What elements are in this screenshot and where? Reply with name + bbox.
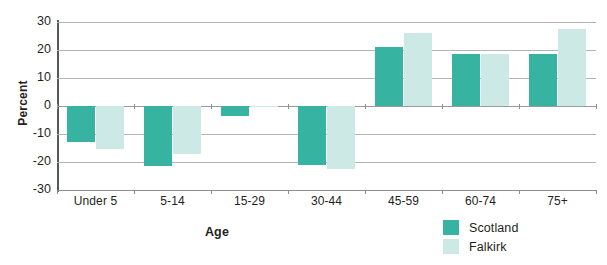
bar-scotland-60-74 xyxy=(452,54,480,106)
bar-scotland-15-29 xyxy=(221,106,249,116)
x-axis-tick-mark xyxy=(57,104,58,109)
x-axis-tick-mark-end xyxy=(596,104,597,109)
legend-label-falkirk: Falkirk xyxy=(469,240,507,254)
x-axis-title: Age xyxy=(57,225,377,239)
x-axis-tick-label: 60-74 xyxy=(442,194,519,208)
y-axis-tick-label: -10 xyxy=(0,126,51,140)
y-axis-tick-label: 0 xyxy=(0,98,51,112)
gridline xyxy=(57,22,596,23)
bar-chart: Percent 3020100-10-20-30 Under 55-1415-2… xyxy=(0,0,607,265)
x-axis-tick-mark-bottom xyxy=(442,190,443,194)
gridline xyxy=(57,78,596,79)
x-axis-tick-mark-bottom xyxy=(134,190,135,194)
legend-label-scotland: Scotland xyxy=(469,221,518,235)
bar-falkirk-under-5 xyxy=(96,106,124,149)
x-axis-tick-mark-bottom xyxy=(365,190,366,194)
x-axis-tick-mark-end xyxy=(596,190,597,194)
bar-scotland-30-44 xyxy=(298,106,326,165)
chart-title-remnant xyxy=(0,0,607,5)
legend-item-falkirk: Falkirk xyxy=(443,237,518,256)
y-axis-tick-label: -20 xyxy=(0,154,51,168)
x-axis-tick-mark xyxy=(519,104,520,109)
x-axis-tick-mark xyxy=(442,104,443,109)
bar-scotland-under-5 xyxy=(67,106,95,142)
x-axis-tick-mark-bottom xyxy=(57,190,58,194)
bar-falkirk-15-29 xyxy=(250,106,278,107)
x-axis-tick-label: 30-44 xyxy=(288,194,365,208)
x-axis-tick-mark xyxy=(211,104,212,109)
x-axis-tick-label: 15-29 xyxy=(211,194,288,208)
gridline xyxy=(57,50,596,51)
y-axis-tick-label: 30 xyxy=(0,14,51,28)
legend-item-scotland: Scotland xyxy=(443,218,518,237)
x-axis-tick-mark xyxy=(288,104,289,109)
bar-falkirk-30-44 xyxy=(327,106,355,169)
x-axis-tick-mark xyxy=(134,104,135,109)
bar-falkirk-45-59 xyxy=(404,33,432,106)
x-axis-tick-mark-bottom xyxy=(519,190,520,194)
plot-area xyxy=(57,22,596,190)
bar-falkirk-5-14 xyxy=(173,106,201,154)
x-axis-tick-label: 45-59 xyxy=(365,194,442,208)
x-axis-tick-mark-bottom xyxy=(288,190,289,194)
x-axis-tick-label: 75+ xyxy=(519,194,596,208)
x-axis-tick-mark xyxy=(365,104,366,109)
bar-falkirk-60-74 xyxy=(481,54,509,106)
legend-swatch-falkirk-icon xyxy=(443,239,459,254)
y-axis-tick-labels: 3020100-10-20-30 xyxy=(0,0,53,265)
x-axis-tick-mark-bottom xyxy=(211,190,212,194)
chart-legend: Scotland Falkirk xyxy=(443,218,518,256)
y-axis-tick-label: 20 xyxy=(0,42,51,56)
bar-scotland-75- xyxy=(529,54,557,106)
bar-scotland-45-59 xyxy=(375,47,403,106)
x-axis-tick-label: Under 5 xyxy=(57,194,134,208)
y-axis-tick-label: -30 xyxy=(0,182,51,196)
x-axis-tick-labels: Under 55-1415-2930-4445-5960-7475+ xyxy=(57,194,596,212)
gridline xyxy=(57,190,596,191)
bar-falkirk-75- xyxy=(558,29,586,106)
x-axis-tick-label: 5-14 xyxy=(134,194,211,208)
y-axis-tick-label: 10 xyxy=(0,70,51,84)
bar-scotland-5-14 xyxy=(144,106,172,166)
legend-swatch-scotland-icon xyxy=(443,220,459,235)
